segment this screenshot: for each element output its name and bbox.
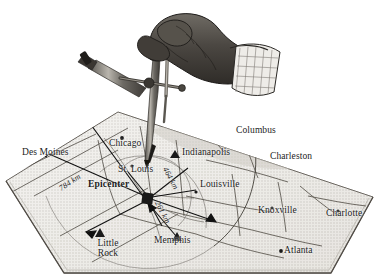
city-label-charlotte: Charlotte	[326, 209, 362, 219]
city-label-louisville: Louisville	[200, 180, 240, 190]
city-label-indianapolis: Indianapolis	[182, 148, 230, 158]
city-label-atlanta: Atlanta	[284, 246, 313, 256]
city-label-memphis: Memphis	[154, 236, 191, 246]
marker-dot-charleston	[289, 164, 292, 167]
city-label-chicago: Chicago	[109, 139, 141, 149]
city-label-charleston: Charleston	[270, 152, 312, 162]
city-label-little-rock: Little Rock	[86, 239, 130, 259]
city-label-columbus: Columbus	[236, 126, 276, 136]
illustration-canvas: Des Moines Chicago Indianapolis Columbus…	[0, 0, 392, 279]
city-label-knoxville: Knoxville	[258, 206, 297, 216]
city-label-des-moines: Des Moines	[22, 148, 69, 158]
epicenter-label: Epicenter	[88, 180, 129, 190]
marker-dot-columbus	[252, 139, 255, 142]
marker-dot-atlanta	[279, 249, 283, 253]
scene-vector	[0, 0, 392, 279]
city-label-st-louis: St. Louis	[118, 165, 153, 175]
marker-dot-louisville	[194, 190, 197, 193]
